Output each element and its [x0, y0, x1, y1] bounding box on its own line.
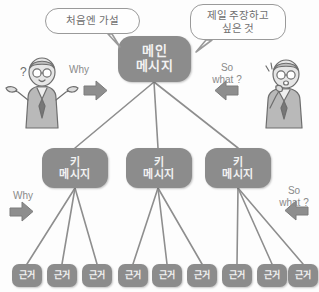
- speech-bubble-right: 제일 주장하고 싶은 것: [190, 4, 286, 40]
- speech-bubble-right-line-1: 제일 주장하고: [207, 9, 270, 22]
- so-what-label-top-line-2: what ?: [205, 74, 249, 86]
- so-what-label-bottom-line-1: So: [272, 185, 316, 197]
- why-label-top: Why: [62, 64, 96, 76]
- why-label-top-line-1: Why: [62, 64, 96, 76]
- diagram-canvas: 메인 메시지 키 메시지 키 메시지 키 메시지 근거 근거 근거 근거 근거 …: [0, 0, 319, 292]
- so-what-label-top: So what ?: [205, 62, 249, 85]
- so-what-label-bottom: So what ?: [272, 185, 316, 208]
- so-what-label-bottom-line-2: what ?: [272, 197, 316, 209]
- illustration-layer: ?: [0, 0, 319, 292]
- thinking-man-illustration: [266, 60, 302, 128]
- so-what-label-top-line-1: So: [205, 62, 249, 74]
- why-arrow-top-icon: [84, 81, 107, 100]
- speech-bubble-left-line-1: 처음엔 가설: [66, 14, 119, 27]
- why-arrow-bottom-icon: [10, 202, 33, 221]
- speech-bubble-right-line-2: 싶은 것: [222, 22, 255, 35]
- why-label-bottom: Why: [6, 190, 40, 202]
- why-label-bottom-line-1: Why: [6, 190, 40, 202]
- speech-bubble-left-tail: [108, 34, 120, 47]
- speech-bubble-right-tail: [196, 40, 212, 52]
- speech-bubble-left: 처음엔 가설: [45, 8, 140, 34]
- question-mark-glyph: ?: [20, 65, 27, 79]
